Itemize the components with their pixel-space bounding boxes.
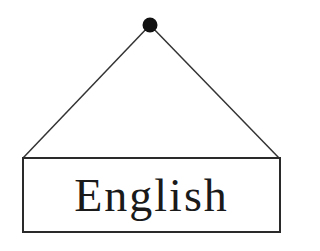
sign-label: English [74,173,229,219]
right-string [150,25,279,158]
left-string [23,25,150,158]
hanging-sign: English [22,157,281,233]
nail-icon [143,18,158,33]
